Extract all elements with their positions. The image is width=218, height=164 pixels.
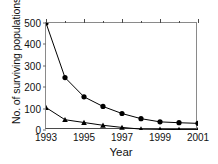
x-axis-title: Year [45,146,197,158]
x-tick-mark [122,19,123,23]
plot-area: 010020030040050019931995199719992001 [45,22,197,129]
data-point-circle [46,23,49,26]
x-tick-label: 1999 [149,128,171,143]
series-line-circles [46,23,198,123]
x-tick-mark [84,19,85,23]
x-tick-label: 2001 [187,128,209,143]
x-minor-tick-mark [141,21,142,23]
y-tick-mark [43,44,46,45]
y-axis-title: No. of surviving populations [10,4,22,124]
y-tick-mark [43,87,46,88]
y-tick-mark [43,108,46,109]
plot-canvas [46,23,198,130]
x-tick-mark [198,19,199,23]
x-tick-mark [160,19,161,23]
x-tick-mark [46,19,47,23]
x-tick-label: 1995 [73,128,95,143]
y-tick-mark [43,65,46,66]
data-point-circle [119,111,124,116]
data-point-circle [157,119,162,124]
data-point-circle [81,94,86,99]
chart-figure: No. of surviving populations 01002003004… [0,0,218,164]
x-tick-label: 1993 [35,128,57,143]
data-point-circle [195,121,198,126]
x-minor-tick-mark [179,21,180,23]
x-tick-label: 1997 [111,128,133,143]
data-point-circle [176,120,181,125]
x-minor-tick-mark [103,21,104,23]
x-minor-tick-mark [65,21,66,23]
data-point-circle [62,75,67,80]
data-point-circle [100,104,105,109]
data-point-circle [138,116,143,121]
